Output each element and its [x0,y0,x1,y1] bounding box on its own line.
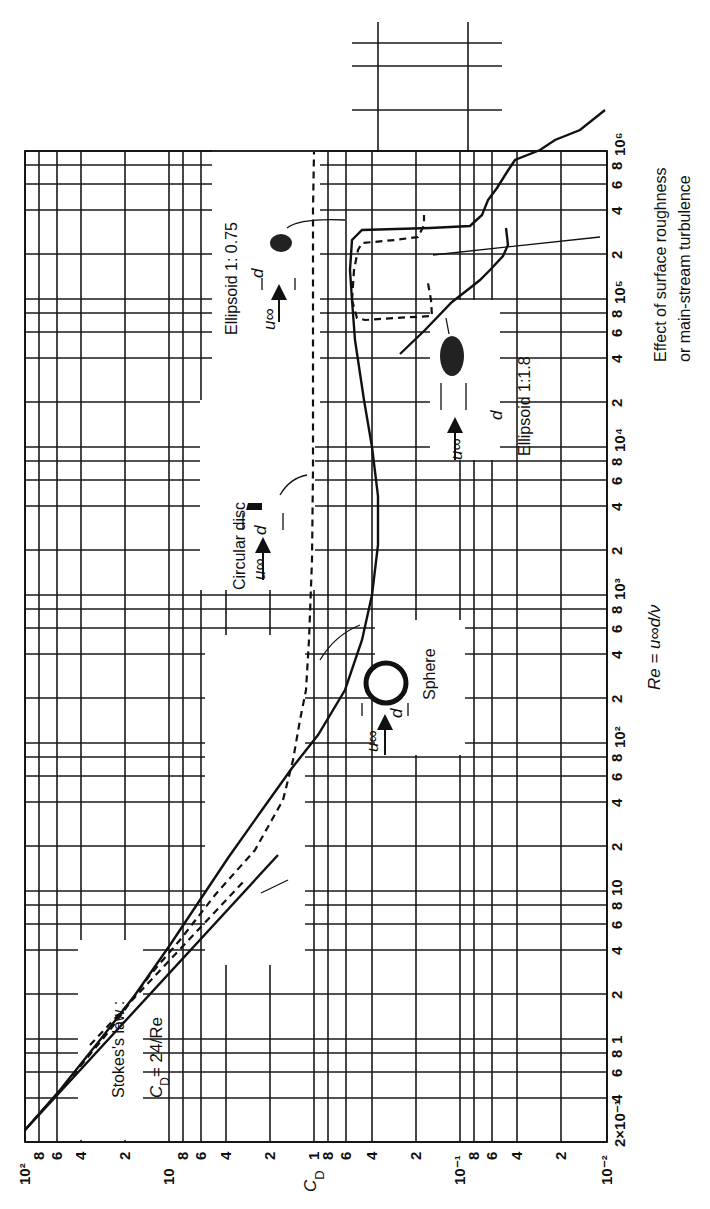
re-tick-label: 6 [608,625,625,633]
re-tick-label: 4 [608,206,625,215]
sphere-icon [366,663,406,703]
svg-text:d: d [487,410,506,420]
re-tick-label: 1 [608,1036,625,1044]
svg-text:d: d [248,268,267,278]
re-tick-label: 10² [611,726,628,748]
disc-icon [246,503,262,510]
re-tick-label: 6 [608,921,625,929]
svg-text:d: d [251,525,270,535]
re-tick-label: 4 [608,650,625,659]
re-tick-label: 10⁵ [611,280,628,304]
re-tick-label: 8 [608,1050,625,1058]
re-tick-label: 8 [608,310,625,318]
re-tick-label: 2×10⁻¹ [611,1100,628,1147]
ellipsoid-075-icon [270,234,292,252]
ellipsoid-18-icon [440,336,464,376]
re-tick-label: 8 [608,606,625,614]
svg-text:u∞: u∞ [250,558,269,580]
re-tick-label: 4 [608,354,625,363]
re-tick-label: 4 [608,502,625,511]
cd-tick-label: 8 [465,1152,482,1160]
re-tick-label: 4 [608,946,625,955]
re-tick-label: 2 [608,251,625,259]
svg-text:u∞: u∞ [447,438,466,460]
re-tick-label: 10⁶ [611,132,628,156]
cd-tick-label: 2 [552,1152,569,1160]
re-tick-label: 8 [608,162,625,170]
cd-tick-label: 10² [16,1163,33,1185]
cd-tick-label: 8 [319,1152,336,1160]
re-tick-label: 10⁴ [611,428,628,452]
annotation-backgrounds [0,0,710,1209]
cd-tick-label: 6 [483,1152,500,1160]
svg-text:Ellipsoid 1:1.8: Ellipsoid 1:1.8 [516,356,533,456]
re-tick-label: 2 [608,547,625,555]
cd-tick-label: 6 [48,1152,65,1160]
cd-tick-label: 10⁻² [598,1155,615,1185]
x-axis-title: Re = u∞d/ν [645,604,664,690]
svg-text:d: d [387,708,406,718]
re-tick-label: 6 [608,1069,625,1077]
re-tick-label: 8 [608,458,625,466]
cd-tick-label: 2 [407,1152,424,1160]
cd-tick-label: 2 [116,1152,133,1160]
cd-tick-label: 8 [174,1152,191,1160]
cd-tick-label: 6 [337,1152,354,1160]
cd-tick-label: 8 [30,1152,47,1160]
svg-text:Circular disc: Circular disc [231,502,248,590]
svg-text:Sphere: Sphere [421,648,438,700]
re-tick-label: 2 [608,695,625,703]
svg-text:or main-stream turbulence: or main-stream turbulence [676,175,693,362]
cd-tick-label: 4 [72,1151,89,1160]
re-tick-label: 2 [608,843,625,851]
re-tick-label: 4 [608,1094,625,1103]
cd-tick-label: 10 [160,1168,177,1185]
re-tick-label: 6 [608,329,625,337]
svg-text:u∞: u∞ [260,308,279,330]
cd-tick-label: 4 [217,1151,234,1160]
drag-coefficient-chart: Stokes's law : CD= 24/Re Sphere d u∞ Cir… [0,0,710,1209]
svg-text:Effect of surface roughness: Effect of surface roughness [652,168,669,362]
re-tick-label: 8 [608,754,625,762]
re-tick-label: 2 [608,399,625,407]
re-tick-label: 6 [608,181,625,189]
svg-text:u∞: u∞ [363,730,382,752]
svg-text:Ellipsoid 1: 0.75: Ellipsoid 1: 0.75 [223,222,240,335]
re-tick-label: 4 [608,798,625,807]
cd-tick-label: 2 [261,1152,278,1160]
re-tick-label: 6 [608,773,625,781]
cd-tick-label: 4 [363,1151,380,1160]
re-tick-label: 6 [608,477,625,485]
re-tick-label: 8 [608,902,625,910]
re-tick-label: 10 [608,879,625,896]
svg-text:Stokes's law :: Stokes's law : [110,1001,127,1098]
re-tick-label: 10³ [611,578,628,600]
cd-tick-label: 4 [508,1151,525,1160]
cd-tick-label: 6 [192,1152,209,1160]
re-tick-label: 2 [608,991,625,999]
